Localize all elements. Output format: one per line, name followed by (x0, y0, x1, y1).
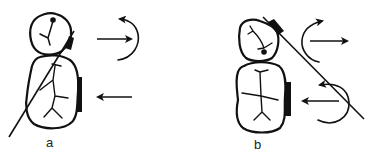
long-axis-line-a (9, 31, 74, 137)
dental-force-diagram (0, 0, 374, 159)
molar-attachment-b (285, 82, 291, 116)
molar-fissure-b (242, 70, 278, 120)
premolar-cusp-dot-b (261, 49, 267, 55)
molar-attachment-a (77, 77, 82, 112)
molar-fissure-a (40, 64, 68, 118)
premolar-cusp-dot-a (50, 17, 56, 23)
moment-arrow-icon-b-lower (318, 84, 349, 123)
premolar-attachment-b (268, 19, 284, 35)
panel-label-a: a (46, 136, 53, 149)
panel-b (236, 17, 364, 133)
premolar-fissure-b (248, 26, 272, 49)
panel-a (9, 13, 138, 137)
panel-label-b: b (254, 138, 261, 151)
premolar-fissure-a (40, 21, 53, 45)
